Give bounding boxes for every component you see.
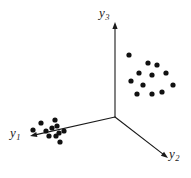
data-point	[154, 62, 159, 67]
data-point	[43, 128, 48, 133]
data-point	[46, 133, 51, 138]
axis-label-y2-text: y	[169, 146, 175, 161]
axis-label-y3-text: y	[99, 5, 105, 20]
axis-label-y2-subscript: 2	[175, 153, 179, 163]
axis-arrowhead-y3	[112, 22, 117, 29]
axis-label-y1-text: y	[10, 125, 16, 140]
axis-label-y1: y1	[10, 126, 20, 139]
axis-arrowhead-y1	[30, 132, 37, 137]
data-point	[145, 60, 150, 65]
data-point	[54, 123, 59, 128]
data-point	[159, 89, 164, 94]
data-point	[134, 91, 139, 96]
data-point	[30, 127, 35, 132]
data-point	[163, 70, 168, 75]
data-point	[49, 125, 54, 130]
plot-canvas	[0, 0, 191, 178]
data-point	[170, 82, 175, 87]
data-point	[57, 139, 62, 144]
data-point	[140, 82, 145, 87]
data-point	[61, 128, 66, 133]
axis-line-y2	[115, 117, 166, 156]
scatter-figure: y3 y1 y2	[0, 0, 191, 178]
data-point	[149, 91, 154, 96]
axis-label-y1-subscript: 1	[16, 132, 20, 142]
axis-arrowhead-y2	[161, 152, 168, 158]
axis-label-y2: y2	[169, 147, 179, 160]
data-point	[52, 117, 57, 122]
axis-label-y3: y3	[99, 6, 109, 19]
data-point	[53, 133, 58, 138]
data-point	[128, 78, 133, 83]
data-point	[38, 120, 43, 125]
axis-label-y3-subscript: 3	[105, 12, 109, 22]
data-point	[136, 70, 141, 75]
data-point	[149, 72, 154, 77]
data-point	[126, 52, 131, 57]
